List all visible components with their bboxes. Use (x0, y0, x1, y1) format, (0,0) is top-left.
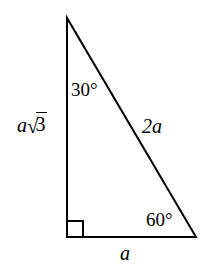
triangle-drawing (0, 0, 203, 279)
angle-label-30: 30° (71, 80, 98, 99)
angle-label-60: 60° (146, 210, 173, 229)
radical-coefficient: a (17, 114, 27, 136)
triangle-outline (67, 18, 196, 237)
radicand-value: 3 (36, 112, 47, 135)
side-label-a: a (120, 243, 130, 263)
right-angle-marker-icon (67, 221, 83, 237)
side-label-a-sqrt-3: a√3 (17, 115, 47, 136)
side-label-2a: 2a (142, 116, 162, 136)
triangle-figure: 30° 60° a√3 2a a (0, 0, 203, 279)
radical-expression: a√3 (17, 115, 47, 136)
